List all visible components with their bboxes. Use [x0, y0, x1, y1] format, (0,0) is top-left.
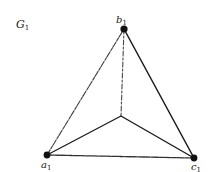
label-c1: c1 [191, 161, 201, 172]
graph-vertices [44, 25, 198, 161]
edge-a1-center [47, 116, 121, 155]
edge-b1-center [121, 29, 124, 116]
vertex-a1 [44, 152, 51, 159]
label-b1: b1 [116, 14, 127, 27]
edge-a1-b1 [47, 29, 124, 155]
graph-diagram: G1 b1 a1 c1 [0, 0, 213, 172]
edge-a1-c1 [47, 155, 194, 158]
label-a1: a1 [41, 159, 51, 172]
graph-title: G1 [16, 18, 29, 32]
graph-edges [47, 29, 194, 158]
